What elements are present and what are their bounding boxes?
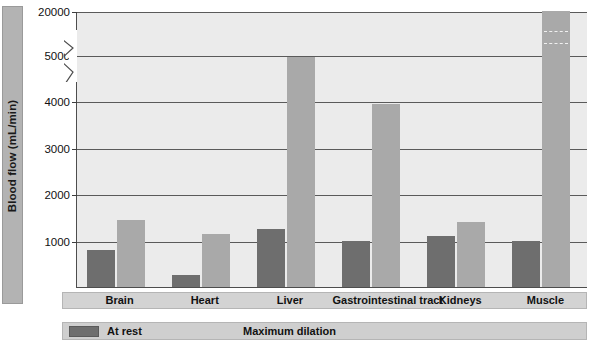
y-tick-label-3000: 3000	[44, 143, 70, 155]
category-label-brain: Brain	[77, 293, 162, 308]
bar-gastrointestinal-tract-at-rest	[342, 241, 370, 287]
bar-heart-at-rest	[172, 275, 200, 287]
bar-liver-at-rest	[257, 229, 285, 287]
bar-liver-maximum-dilation	[287, 57, 315, 287]
y-tick-label-1000: 1000	[44, 236, 70, 248]
legend-item-at-rest: At rest	[69, 324, 142, 338]
category-label-muscle: Muscle	[503, 293, 588, 308]
legend-label-maximum-dilation: Maximum dilation	[243, 325, 336, 338]
bar-brain-maximum-dilation	[117, 220, 145, 287]
y-tick-label-20000: 20000	[38, 6, 70, 18]
category-label-heart: Heart	[162, 293, 247, 308]
blood-flow-bar-chart: Blood flow (mL/min) 20000500040003000200…	[0, 0, 591, 346]
y-axis-title: Blood flow (mL/min)	[4, 12, 21, 300]
bar-muscle-maximum-dilation	[542, 11, 570, 287]
bar-muscle-at-rest	[512, 241, 540, 287]
category-labels-strip: BrainHeartLiverGastrointestinal tractKid…	[62, 292, 587, 309]
category-label-kidneys: Kidneys	[418, 293, 503, 308]
category-label-liver: Liver	[247, 293, 332, 308]
y-tick-label-4000: 4000	[44, 96, 70, 108]
legend-item-maximum-dilation: Maximum dilation	[205, 324, 336, 338]
bar-kidneys-maximum-dilation	[457, 222, 485, 287]
category-label-gastrointestinal-tract: Gastrointestinal tract	[333, 293, 418, 308]
legend: At restMaximum dilation	[62, 322, 587, 340]
legend-label-at-rest: At rest	[107, 325, 142, 338]
y-tick-label-2000: 2000	[44, 189, 70, 201]
y-tick-label-5000: 5000	[44, 50, 70, 62]
bar-kidneys-at-rest	[427, 236, 455, 287]
bar-gastrointestinal-tract-maximum-dilation	[372, 104, 400, 287]
bar-break-dash-2	[544, 43, 568, 44]
plot-area: 2000050004000300020001000	[76, 12, 587, 288]
bar-break-dash-1	[544, 31, 568, 32]
bar-brain-at-rest	[87, 250, 115, 287]
bars-layer	[77, 12, 587, 287]
legend-swatch-maximum-dilation	[205, 326, 235, 337]
y-axis-title-band: Blood flow (mL/min)	[2, 6, 23, 304]
bar-heart-maximum-dilation	[202, 234, 230, 287]
legend-swatch-at-rest	[69, 326, 99, 337]
